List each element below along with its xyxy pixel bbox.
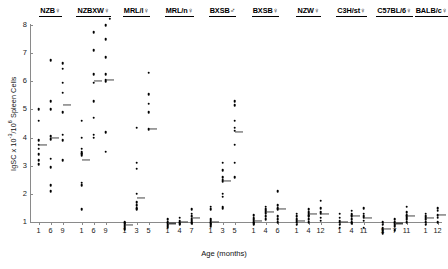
mean-bar: [321, 213, 329, 214]
x-tick-label: 1: [294, 227, 298, 235]
x-tick-mark: [94, 222, 95, 225]
x-tick-label: 1: [36, 227, 40, 235]
data-point: [49, 184, 52, 187]
data-point: [61, 133, 64, 136]
x-tick-label: 1: [251, 227, 255, 235]
mean-bar: [137, 198, 145, 199]
data-point: [49, 108, 52, 111]
data-point: [221, 162, 224, 165]
data-point: [295, 224, 298, 227]
x-tick-label: 3: [220, 227, 224, 235]
mean-bar: [211, 221, 219, 222]
data-point: [49, 190, 52, 193]
data-point: [147, 72, 150, 75]
y-axis-title: IgSC x 10-3/106 Spleen Cells: [6, 49, 17, 199]
data-point: [221, 169, 224, 172]
data-point: [37, 159, 40, 162]
data-point: [104, 73, 107, 76]
data-point: [92, 31, 95, 34]
data-point: [104, 150, 107, 153]
data-point: [362, 226, 365, 229]
x-tick-mark: [235, 222, 236, 225]
mean-bar: [235, 131, 243, 132]
data-point: [147, 103, 150, 106]
data-point: [92, 136, 95, 139]
mean-bar: [426, 217, 434, 218]
data-point: [61, 159, 64, 162]
data-point: [190, 208, 193, 211]
y-tick-label: 6: [18, 77, 27, 85]
x-tick-mark: [266, 222, 267, 225]
data-point: [92, 73, 95, 76]
scatter-plot-figure: IgSC x 10-3/106 Spleen Cells 12345678 NZ…: [0, 0, 448, 269]
data-point: [424, 224, 427, 227]
x-tick-label: 5: [232, 227, 236, 235]
data-point: [61, 81, 64, 84]
mean-bar: [168, 223, 176, 224]
x-tick-mark: [364, 222, 365, 225]
data-point: [104, 56, 107, 59]
data-point: [37, 139, 40, 142]
y-tick-label: 2: [18, 190, 27, 198]
mean-bar: [125, 224, 133, 225]
x-tick-label: 6: [91, 227, 95, 235]
data-point: [264, 218, 267, 221]
data-point: [393, 225, 396, 228]
data-point: [49, 59, 52, 62]
x-tick-mark: [82, 222, 83, 225]
data-point: [104, 24, 107, 27]
mean-bar: [51, 137, 59, 138]
y-tick-label: 4: [18, 134, 27, 142]
data-point: [61, 62, 64, 65]
data-point: [61, 67, 64, 70]
data-point: [166, 226, 169, 229]
x-tick-mark: [223, 222, 224, 225]
data-point: [393, 229, 396, 232]
data-point: [405, 205, 408, 208]
data-point: [49, 166, 52, 169]
data-point: [61, 111, 64, 114]
header-stray-dot: [109, 18, 111, 20]
data-point: [80, 119, 83, 122]
data-point: [37, 119, 40, 122]
x-tick-mark: [39, 222, 40, 225]
mean-bar: [438, 214, 446, 215]
group-header-label: BALB/c♀: [415, 7, 448, 17]
x-tick-label: 4: [177, 227, 181, 235]
x-axis-title: Age (months): [0, 249, 448, 258]
data-point: [233, 162, 236, 165]
data-point: [80, 208, 83, 211]
data-point: [362, 219, 365, 222]
data-point: [92, 49, 95, 52]
x-tick-label: 4: [306, 227, 310, 235]
y-tick-label: 7: [18, 49, 27, 57]
data-point: [37, 153, 40, 156]
data-point: [92, 117, 95, 120]
mean-bar: [278, 209, 286, 210]
data-point: [49, 100, 52, 103]
data-point: [135, 167, 138, 170]
mean-bar: [297, 220, 305, 221]
y-tick-mark: [30, 109, 33, 110]
mean-bar: [266, 212, 274, 213]
data-point: [123, 228, 126, 231]
data-point: [61, 139, 64, 142]
y-tick-mark: [30, 222, 33, 223]
x-tick-label: 4: [263, 227, 267, 235]
x-tick-label: 4: [349, 227, 353, 235]
group-header-balbc: BALB/c♀: [392, 7, 448, 17]
y-tick-label: 8: [18, 21, 27, 29]
x-tick-label: 7: [189, 227, 193, 235]
data-point: [319, 219, 322, 222]
data-point: [104, 38, 107, 41]
data-point: [362, 207, 365, 210]
data-point: [233, 119, 236, 122]
data-point: [405, 221, 408, 224]
mean-bar: [106, 79, 114, 80]
data-point: [49, 157, 52, 160]
data-point: [37, 163, 40, 166]
x-tick-mark: [63, 222, 64, 225]
x-tick-mark: [106, 222, 107, 225]
data-point: [37, 108, 40, 111]
x-tick-label: 9: [103, 227, 107, 235]
